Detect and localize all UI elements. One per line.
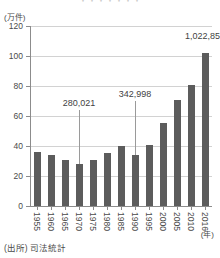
gridline: [30, 26, 212, 27]
y-tick-label: 100: [9, 51, 23, 61]
y-tick-label: 40: [14, 141, 23, 151]
y-axis-line: [30, 26, 31, 207]
x-tick-label: 2005: [172, 212, 182, 231]
leader-line: [135, 101, 136, 155]
bar: [76, 164, 83, 206]
gridline: [30, 86, 212, 87]
x-tick: [79, 206, 80, 210]
x-tick-label: 1960: [46, 212, 56, 231]
bar: [146, 145, 153, 207]
y-tick-label: 80: [14, 81, 23, 91]
bar: [34, 152, 41, 206]
x-tick-label: 1965: [60, 212, 70, 231]
bar: [48, 155, 55, 206]
bar: [118, 146, 125, 206]
x-tick-label: 2010: [186, 212, 196, 231]
gridline: [30, 116, 212, 117]
x-tick: [163, 206, 164, 210]
x-tick: [149, 206, 150, 210]
y-tick-label: 0: [18, 201, 23, 211]
x-tick-label: 1990: [130, 212, 140, 231]
bar: [62, 160, 69, 207]
y-tick-label: 60: [14, 111, 23, 121]
source-note: (出所) 司法統計: [4, 241, 66, 253]
x-tick-label: 1980: [102, 212, 112, 231]
data-label: 342,998: [119, 89, 152, 99]
x-tick: [93, 206, 94, 210]
bar: [160, 123, 167, 206]
bar: [188, 85, 195, 207]
x-tick: [177, 206, 178, 210]
x-tick-label: 2000: [158, 212, 168, 231]
y-tick-label: 120: [9, 21, 23, 31]
x-tick: [107, 206, 108, 210]
x-tick: [205, 206, 206, 210]
bar: [174, 100, 181, 207]
data-label: 1,022,859: [185, 31, 220, 41]
leader-line: [79, 110, 80, 164]
x-tick: [135, 206, 136, 210]
bar: [104, 153, 111, 206]
x-tick: [37, 206, 38, 210]
x-tick: [191, 206, 192, 210]
y-tick-label: 20: [14, 171, 23, 181]
x-tick-label: 1955: [32, 212, 42, 231]
x-tick-label: 1975: [88, 212, 98, 231]
x-axis-unit-label: (年): [201, 228, 214, 239]
data-label: 280,021: [63, 98, 96, 108]
plot-area: 020406080100120 195519601965197019751980…: [30, 26, 212, 206]
bar: [202, 53, 209, 206]
bar: [132, 155, 139, 206]
cropped-title-text: ・・・・・・・: [79, 0, 142, 6]
bar-chart-figure: ・・・・・・・ (万件) 020406080100120 19551960196…: [0, 0, 220, 258]
x-tick-label: 1995: [144, 212, 154, 231]
x-tick: [121, 206, 122, 210]
gridline: [30, 56, 212, 57]
bar: [90, 160, 97, 206]
x-tick-label: 1970: [74, 212, 84, 231]
x-tick: [65, 206, 66, 210]
x-tick: [51, 206, 52, 210]
x-tick-label: 1985: [116, 212, 126, 231]
cropped-title-strip: ・・・・・・・: [0, 0, 220, 9]
